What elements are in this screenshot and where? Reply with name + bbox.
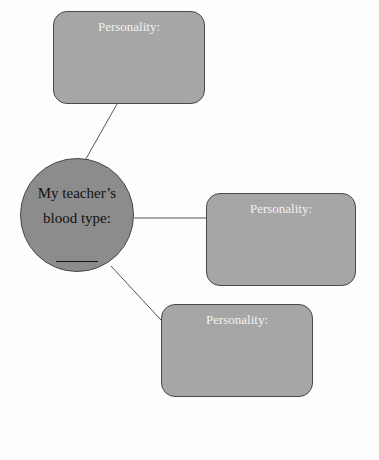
personality-label: Personality: <box>250 201 312 216</box>
personality-box-right: Personality: <box>206 193 356 286</box>
center-line-2: blood type: <box>21 206 133 231</box>
answer-blank[interactable] <box>56 261 98 262</box>
personality-label: Personality: <box>206 312 268 327</box>
personality-box-bottom: Personality: <box>161 304 313 397</box>
personality-box-top: Personality: <box>53 11 205 104</box>
connector-bottom <box>111 266 161 320</box>
blood-type-circle: My teacher’s blood type: <box>20 158 134 272</box>
center-line-1: My teacher’s <box>21 181 133 206</box>
connector-top <box>83 104 117 164</box>
personality-label: Personality: <box>98 19 160 34</box>
